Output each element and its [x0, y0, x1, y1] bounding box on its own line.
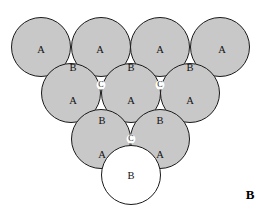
site-label-c-c_sites-1: C: [157, 80, 162, 89]
site-label-a-row_a_top-0: A: [37, 44, 45, 55]
site-label-b-row_b_upper-2: B: [186, 62, 193, 73]
site-label-b-row_b_open-0: B: [127, 170, 134, 181]
close-packing-figure: AAAABBBAAABBAABCCC B: [0, 0, 273, 220]
site-label-b-row_b_upper-1: B: [127, 62, 134, 73]
site-label-a-row_a_top-2: A: [156, 44, 164, 55]
site-label-a-row_a_top-3: A: [218, 44, 226, 55]
site-label-c-c_sites-0: C: [98, 80, 103, 89]
site-label-a-row_a_bottom-0: A: [98, 149, 106, 160]
site-label-b-row_b_lower-0: B: [98, 115, 105, 126]
panel-label: B: [246, 187, 255, 202]
site-label-a-row_a_middle-0: A: [69, 95, 77, 106]
site-label-a-row_a_middle-1: A: [127, 95, 135, 106]
packing-diagram: AAAABBBAAABBAABCCC B: [0, 0, 273, 220]
site-label-c-c_sites-2: C: [128, 134, 133, 143]
site-label-a-row_a_top-1: A: [96, 44, 104, 55]
site-label-a-row_a_bottom-1: A: [156, 149, 164, 160]
site-label-b-row_b_upper-0: B: [69, 62, 76, 73]
site-label-a-row_a_middle-2: A: [186, 95, 194, 106]
site-label-b-row_b_lower-1: B: [156, 115, 163, 126]
